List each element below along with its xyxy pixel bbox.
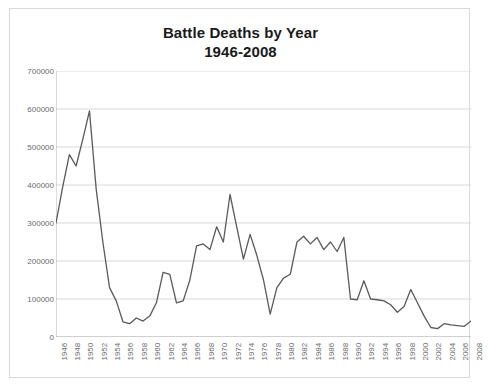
y-axis-tick-label: 700000 <box>10 67 54 76</box>
x-axis-tick-label: 1978 <box>274 343 283 360</box>
x-axis-tick-label: 1996 <box>394 343 403 360</box>
x-axis-tick-label: 1966 <box>193 343 202 360</box>
x-axis-tick-label: 1972 <box>234 343 243 360</box>
x-axis-tick-label: 1990 <box>354 343 363 360</box>
x-axis-tick-label: 2004 <box>448 343 457 360</box>
x-axis-tick-label: 1946 <box>60 343 69 360</box>
y-axis-tick-label: 600000 <box>10 105 54 114</box>
y-axis-tick-label: 500000 <box>10 143 54 152</box>
x-axis-tick-label: 2002 <box>434 343 443 360</box>
x-axis-tick-label: 1954 <box>113 343 122 360</box>
chart-subtitle: 1946-2008 <box>10 42 471 61</box>
x-axis-tick-label: 1964 <box>180 343 189 360</box>
x-axis-tick-label: 1980 <box>287 343 296 360</box>
x-axis-tick-label: 1950 <box>86 343 95 360</box>
x-axis-tick-label: 1960 <box>153 343 162 360</box>
x-axis-tick-label: 1962 <box>167 343 176 360</box>
x-axis-tick-label: 1958 <box>140 343 149 360</box>
plot-area <box>56 71 471 337</box>
line-chart-svg <box>56 71 471 337</box>
chart-frame: Battle Deaths by Year 1946-2008 70000060… <box>9 8 470 378</box>
x-axis-tick-label: 1984 <box>314 343 323 360</box>
x-axis-tick-label: 1986 <box>327 343 336 360</box>
y-axis-tick-label: 300000 <box>10 219 54 228</box>
x-axis-tick-label: 1956 <box>126 343 135 360</box>
x-axis-tick-label: 1988 <box>341 343 350 360</box>
x-axis-tick-label: 1992 <box>367 343 376 360</box>
x-axis-tick-label: 2000 <box>421 343 430 360</box>
gridlines <box>56 71 471 337</box>
x-axis-tick-label: 1974 <box>247 343 256 360</box>
chart-container: Battle Deaths by Year 1946-2008 70000060… <box>0 0 489 390</box>
x-axis-tick-labels: 1946194819501952195419561958196019621964… <box>56 343 471 389</box>
x-axis-tick-label: 1952 <box>100 343 109 360</box>
y-axis-tick-label: 200000 <box>10 257 54 266</box>
x-axis-tick-label: 2006 <box>461 343 470 360</box>
x-axis-tick-label: 1968 <box>207 343 216 360</box>
y-axis-tick-labels: 7000006000005000004000003000002000001000… <box>10 71 54 337</box>
chart-title-line1: Battle Deaths by Year <box>163 24 318 41</box>
y-axis-tick-label: 0 <box>10 333 54 342</box>
x-axis-tick-label: 1982 <box>300 343 309 360</box>
chart-title: Battle Deaths by Year 1946-2008 <box>10 23 471 61</box>
battle-deaths-line <box>56 111 471 329</box>
x-axis-tick-label: 1994 <box>381 343 390 360</box>
x-axis-tick-label: 1976 <box>260 343 269 360</box>
x-axis-tick-label: 2008 <box>475 343 484 360</box>
x-axis-tick-label: 1970 <box>220 343 229 360</box>
x-axis-tick-label: 1948 <box>73 343 82 360</box>
y-axis-tick-label: 400000 <box>10 181 54 190</box>
y-axis-tick-label: 100000 <box>10 295 54 304</box>
x-axis-tick-label: 1998 <box>408 343 417 360</box>
axis-lines <box>56 71 471 337</box>
